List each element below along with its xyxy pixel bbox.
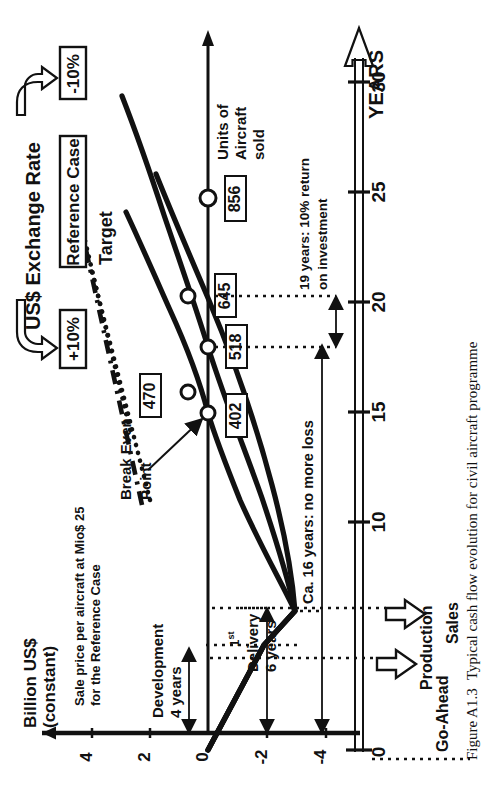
break-even-annotation (148, 419, 202, 470)
target-label: Target (96, 211, 116, 265)
first-delivery-line1: Delivery (244, 613, 261, 672)
return-note-line2: on investment (315, 198, 330, 290)
callout-856: 856 (225, 176, 246, 221)
year-label-0: 0 (368, 747, 389, 758)
callout-402-text: 402 (227, 403, 244, 430)
break-even-line2: Point (137, 463, 154, 501)
development-line1: Development (149, 624, 166, 718)
legend-arrow-minus10 (17, 67, 57, 115)
price-note-line2: for the Reference Case (88, 564, 103, 706)
legend-label-plus10: +10% (64, 317, 83, 361)
value-tick-neg2: -2 (252, 749, 271, 764)
first-delivery-ordinal-suffix: st (226, 631, 236, 639)
point-470[interactable] (181, 385, 195, 399)
figure-caption: Figure A1.3 Typical cash flow evolution … (464, 341, 480, 760)
value-tick-2: 2 (135, 752, 154, 761)
year-label-20: 20 (368, 291, 389, 312)
value-tick-0: 0 (193, 752, 212, 761)
years-axis (345, 28, 373, 752)
value-tick-neg4: -4 (311, 749, 330, 765)
caption-text: Typical cash flow evolution for civil ai… (464, 341, 480, 680)
point-856[interactable] (200, 190, 216, 206)
legend-box-plus10[interactable]: +10% (60, 310, 86, 368)
envelope-dotted-lines (82, 228, 150, 500)
units-axis (202, 30, 214, 733)
value-axis-title-line2: (constant) (40, 646, 59, 728)
units-axis-title-line2: Aircraft (232, 107, 249, 160)
legend-label-reference: Reference Case (64, 138, 83, 266)
return-note-line1: 19 years: 10% return (297, 158, 312, 290)
legend-label-minus10: -10% (64, 54, 83, 94)
value-tick-4: 4 (77, 752, 96, 762)
first-delivery-ordinal: 1st (226, 613, 242, 672)
point-402[interactable] (201, 406, 215, 420)
years-axis-title: YEARS (365, 50, 387, 119)
units-axis-title-line1: Units of (214, 103, 231, 160)
value-axis (42, 727, 360, 740)
units-axis-arrowhead (202, 30, 214, 46)
year-label-15: 15 (368, 401, 389, 423)
cashflow-chart: 4 2 0 -2 -4 Billion US$ (constant) Sale … (0, 0, 485, 787)
no-more-loss-label: Ca. 16 years: no more loss (300, 420, 316, 604)
sales-label: Sales (444, 602, 461, 644)
point-645[interactable] (181, 289, 195, 303)
legend-box-reference[interactable]: Reference Case (60, 136, 86, 267)
caption-number: Figure A1.3 (464, 688, 480, 760)
callout-470: 470 (140, 374, 161, 417)
price-note-line1: Sale price per aircraft at Mio$ 25 (72, 507, 87, 706)
legend-box-minus10[interactable]: -10% (60, 47, 86, 99)
callout-518: 518 (226, 325, 247, 368)
break-even-line1: Break Even (117, 418, 134, 500)
units-axis-title-line3: sold (250, 129, 267, 160)
callout-470-text: 470 (141, 383, 158, 410)
development-line2: 4 years (167, 666, 184, 718)
value-axis-title-line1: Billion US$ (21, 638, 40, 728)
point-518[interactable] (201, 340, 215, 354)
go-ahead-label: Go-Ahead (434, 676, 451, 752)
figure-container: 4 2 0 -2 -4 Billion US$ (constant) Sale … (0, 0, 485, 787)
callout-402: 402 (226, 394, 247, 437)
callout-856-text: 856 (226, 186, 243, 213)
production-open-arrow (377, 650, 416, 678)
year-label-25: 25 (368, 181, 389, 203)
year-label-10: 10 (368, 511, 389, 532)
